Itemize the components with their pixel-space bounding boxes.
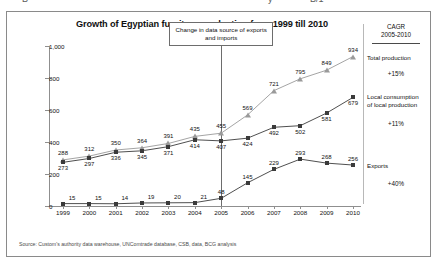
data-point-label: 256 — [348, 156, 358, 162]
series-label-line2: of local production — [367, 101, 419, 109]
data-point-marker — [114, 202, 118, 206]
data-point-label: 15 — [69, 195, 76, 201]
x-axis-label: 2000 — [82, 209, 96, 216]
cagr-header-line2: 2005-2010 — [370, 31, 422, 39]
cagr-rule — [372, 43, 420, 44]
x-axis-label: 2002 — [135, 209, 149, 216]
data-point-marker — [61, 202, 65, 206]
data-point-marker — [325, 161, 329, 165]
series-label-line1: Local consumption — [367, 93, 419, 101]
data-point-label: 502 — [295, 129, 305, 135]
data-point-marker — [245, 112, 251, 117]
data-point-marker — [140, 149, 144, 153]
data-point-label: 371 — [163, 150, 173, 156]
data-point-marker — [272, 125, 276, 129]
data-point-label: 273 — [58, 165, 68, 171]
data-point-label: 435 — [190, 126, 200, 132]
data-point-label: 229 — [269, 160, 279, 166]
data-point-label: 407 — [216, 144, 226, 150]
data-point-label: 15 — [95, 195, 102, 201]
chart-frame: Growth of Egyptian furniture production … — [6, 11, 431, 257]
cagr-header-line1: CAGR — [370, 23, 422, 31]
data-point-marker — [193, 138, 197, 142]
data-point-marker — [140, 201, 144, 205]
x-axis-label: 1999 — [56, 209, 70, 216]
data-point-label: 795 — [295, 69, 305, 75]
x-axis-label: 2006 — [241, 209, 255, 216]
data-point-label: 492 — [269, 130, 279, 136]
plot-area: 02004006008001,0001999200020012002200320… — [31, 46, 361, 214]
data-point-marker — [193, 201, 197, 205]
data-point-label: 934 — [348, 47, 358, 53]
annotation-callout: Change in data source of exports and imp… — [169, 22, 273, 46]
cagr-value-total-production: +15% — [370, 70, 422, 77]
data-point-label: 364 — [137, 138, 147, 144]
data-point-label: 288 — [58, 150, 68, 156]
data-point-marker — [114, 150, 118, 154]
data-point-label: 424 — [243, 141, 253, 147]
data-point-label: 455 — [216, 123, 226, 129]
data-point-marker — [166, 145, 170, 149]
cut-off-header-text: ByB/1 — [0, 0, 439, 11]
data-point-label: 391 — [163, 133, 173, 139]
data-point-marker — [218, 131, 224, 136]
series-label-2: Exports — [367, 162, 388, 170]
data-point-label: 849 — [322, 60, 332, 66]
x-axis-label: 2001 — [109, 209, 123, 216]
data-point-marker — [219, 196, 223, 200]
series-label-line1: Exports — [367, 162, 388, 170]
data-point-marker — [219, 139, 223, 143]
source-note: Source: Custom's authority data warehous… — [19, 241, 236, 247]
data-point-marker — [324, 68, 330, 73]
data-point-marker — [61, 160, 65, 164]
data-point-marker — [87, 202, 91, 206]
data-point-marker — [246, 136, 250, 140]
x-axis-label: 2004 — [188, 209, 202, 216]
series-label-1: Local consumptionof local production — [367, 93, 419, 109]
cut-off-text-0: B — [22, 0, 28, 4]
data-point-label: 48 — [218, 189, 225, 195]
data-point-label: 414 — [190, 143, 200, 149]
series-label-line1: Total production — [367, 54, 411, 62]
data-point-label: 581 — [322, 116, 332, 122]
data-point-label: 268 — [322, 154, 332, 160]
data-point-label: 336 — [111, 155, 121, 161]
data-point-label: 21 — [200, 194, 207, 200]
data-point-marker — [87, 156, 91, 160]
cagr-divider — [363, 24, 364, 204]
data-point-marker — [350, 54, 356, 59]
x-axis-label: 2003 — [162, 209, 176, 216]
cut-off-text-2: B/1 — [310, 0, 324, 4]
data-point-label: 145 — [243, 174, 253, 180]
data-point-label: 293 — [295, 150, 305, 156]
series-label-0: Total production — [367, 54, 411, 62]
data-point-label: 569 — [243, 105, 253, 111]
cut-off-text-1: y — [268, 0, 273, 4]
data-point-label: 345 — [137, 154, 147, 160]
data-point-label: 679 — [348, 100, 358, 106]
data-point-label: 312 — [84, 146, 94, 152]
data-point-marker — [271, 88, 277, 93]
data-point-label: 350 — [111, 140, 121, 146]
data-point-label: 14 — [121, 195, 128, 201]
data-point-marker — [351, 163, 355, 167]
data-point-marker — [298, 124, 302, 128]
x-axis-label: 2005 — [214, 209, 228, 216]
x-axis-label: 2009 — [320, 209, 334, 216]
series-line-2 — [63, 159, 353, 204]
cagr-header: CAGR 2005-2010 — [370, 23, 422, 39]
data-point-marker — [298, 157, 302, 161]
cagr-value-exports: +40% — [370, 180, 422, 187]
data-point-marker — [351, 95, 355, 99]
data-point-label: 20 — [174, 194, 181, 200]
data-point-label: 19 — [148, 194, 155, 200]
x-axis-label: 2008 — [293, 209, 307, 216]
data-point-marker — [325, 111, 329, 115]
data-point-marker — [272, 167, 276, 171]
data-point-marker — [246, 181, 250, 185]
data-point-label: 297 — [84, 161, 94, 167]
x-axis-label: 2007 — [267, 209, 281, 216]
data-point-marker — [166, 201, 170, 205]
screenshot-root: ByB/1 Growth of Egyptian furniture produ… — [0, 0, 439, 262]
annotation-vertical-line — [221, 24, 222, 206]
